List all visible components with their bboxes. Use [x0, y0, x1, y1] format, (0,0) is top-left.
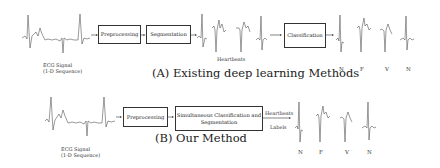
- preprocessing-box: Preprocessing: [123, 107, 168, 127]
- arrow-label-labels: Labels: [270, 124, 287, 130]
- ecg-input-label-line2: (1-D Sequence): [61, 152, 100, 158]
- output-label-v: V: [345, 149, 349, 155]
- preprocessing-label: Preprocessing: [127, 114, 165, 120]
- simultaneous-label-line2: Segmentation: [177, 119, 261, 125]
- simultaneous-classification-segmentation-box: Simultaneous Classification and Segmenta…: [175, 106, 263, 131]
- output-label-n: N: [298, 149, 303, 155]
- caption-b: (B) Our Method: [155, 131, 247, 145]
- output-label-n: N: [367, 149, 372, 155]
- output-label-f: F: [319, 149, 323, 155]
- ecg-input-label: ECG Signal (1-D Sequence): [61, 146, 100, 158]
- arrow-label-heartbeats: Heartbeats: [265, 110, 293, 116]
- simultaneous-label-line1: Simultaneous Classification and: [177, 112, 261, 118]
